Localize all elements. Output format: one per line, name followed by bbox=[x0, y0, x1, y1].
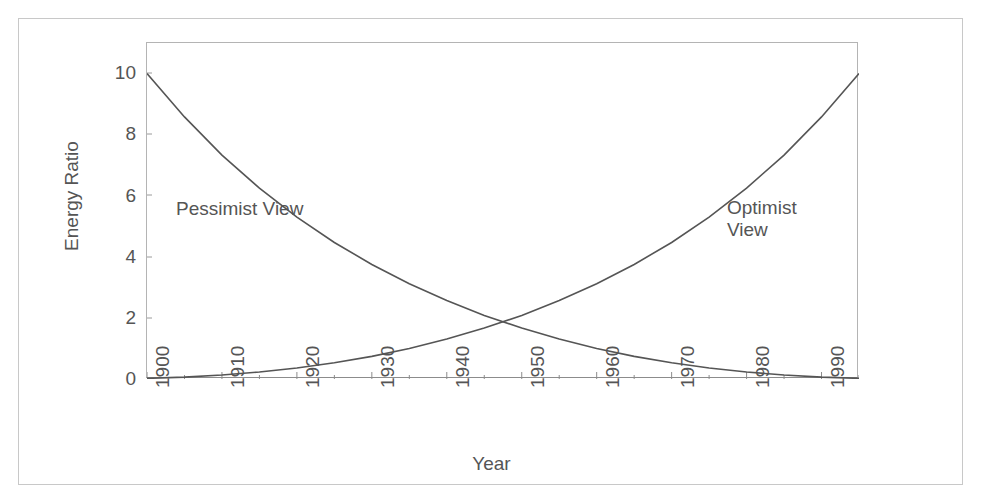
optimist-label-line1: Optimist bbox=[727, 197, 797, 218]
chart-figure: 10 8 6 4 2 0 Energy Ratio Pessimist bbox=[0, 0, 983, 501]
x-tick-label-1960: 1960 bbox=[603, 346, 622, 388]
x-tick-label-1900: 1900 bbox=[153, 346, 172, 388]
x-tick-label-1910: 1910 bbox=[228, 346, 247, 388]
y-tick-marks bbox=[147, 73, 152, 379]
x-tick-label-1950: 1950 bbox=[528, 346, 547, 388]
y-tick-label-4: 4 bbox=[96, 247, 136, 266]
x-tick-label-1920: 1920 bbox=[303, 346, 322, 388]
optimist-view-label: OptimistView bbox=[727, 197, 797, 241]
y-tick-label-0: 0 bbox=[96, 369, 136, 388]
x-tick-label-1930: 1930 bbox=[378, 346, 397, 388]
x-tick-label-1990: 1990 bbox=[828, 346, 847, 388]
pessimist-view-label: Pessimist View bbox=[176, 198, 303, 220]
x-tick-label-1970: 1970 bbox=[678, 346, 697, 388]
y-axis-tick-labels: 10 8 6 4 2 0 bbox=[88, 0, 136, 501]
x-tick-label-1940: 1940 bbox=[453, 346, 472, 388]
y-axis-title: Energy Ratio bbox=[61, 116, 83, 276]
x-tick-label-1980: 1980 bbox=[753, 346, 772, 388]
y-tick-label-6: 6 bbox=[96, 186, 136, 205]
y-tick-label-2: 2 bbox=[96, 308, 136, 327]
optimist-label-line2: View bbox=[727, 219, 768, 240]
y-tick-label-8: 8 bbox=[96, 124, 136, 143]
y-tick-label-10: 10 bbox=[96, 63, 136, 82]
x-axis-title: Year bbox=[0, 453, 983, 475]
